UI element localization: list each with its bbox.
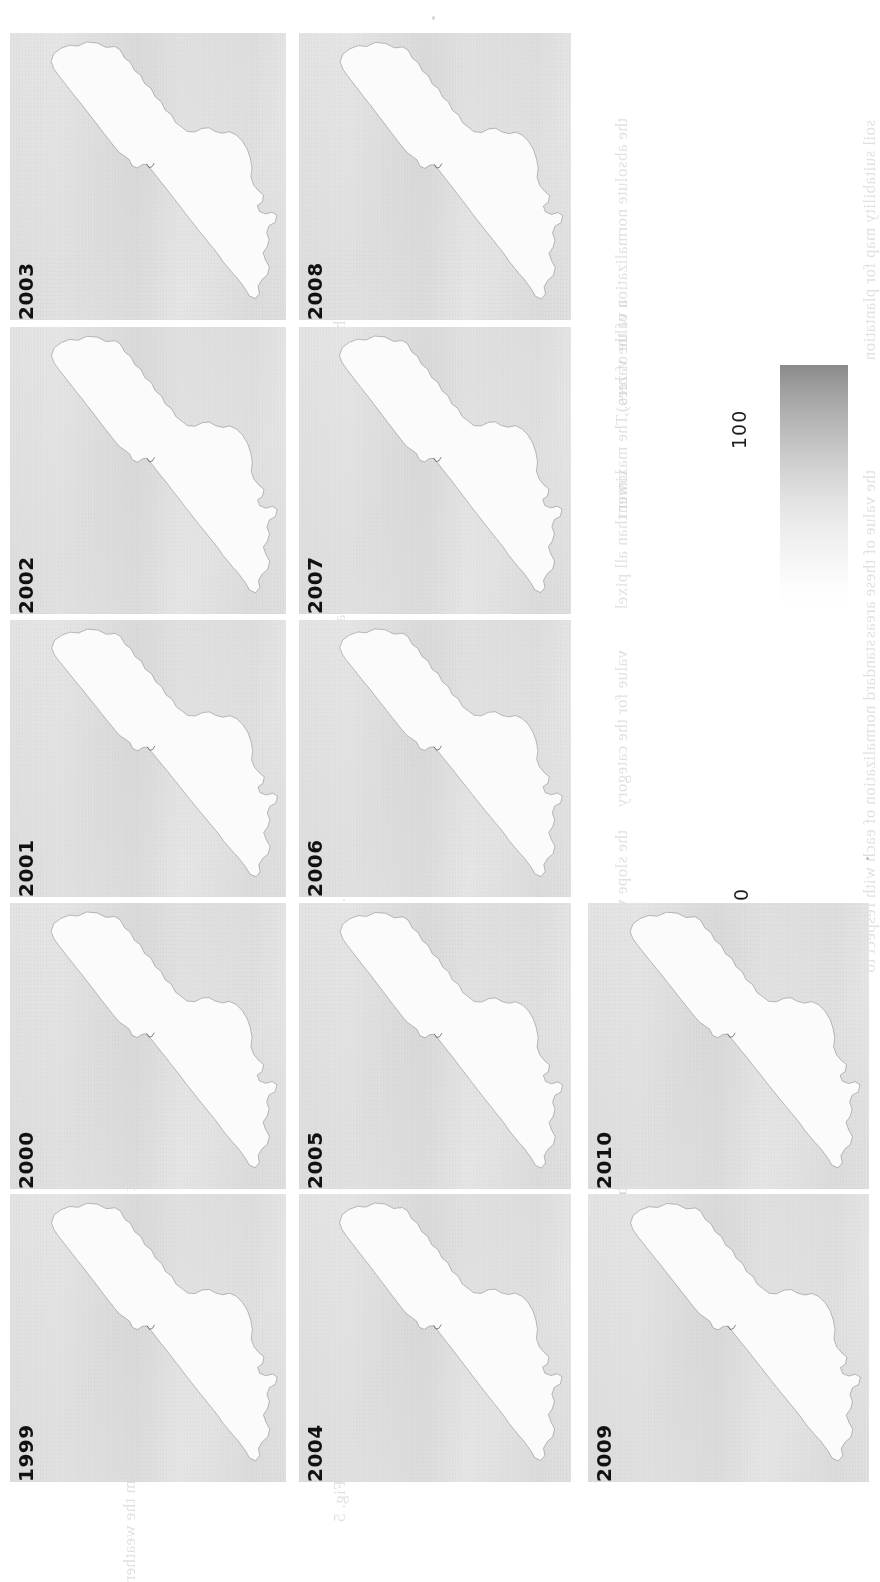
panel-year-label: 2003	[14, 262, 32, 320]
panel-year-label: 2000	[14, 1131, 32, 1189]
bleed-text-line: a value of zero),	[612, 300, 632, 417]
panel-year-label: 2008	[303, 262, 321, 320]
map-outline-2009	[588, 1194, 869, 1482]
coastline-polygon	[51, 1203, 277, 1460]
map-panel-2003[interactable]: 2003	[10, 33, 286, 320]
map-panel-2007[interactable]: 2007	[299, 327, 571, 614]
map-panel-2006[interactable]: 2006	[299, 620, 571, 897]
map-outline-2003	[10, 33, 286, 320]
coastline-polygon	[339, 1203, 561, 1460]
map-panel-2008[interactable]: 2008	[299, 33, 571, 320]
map-panel-2004[interactable]: 2004	[299, 1194, 571, 1482]
panel-year-label: 2010	[592, 1131, 610, 1189]
panel-year-label: 2005	[303, 1131, 321, 1189]
coastline-polygon	[52, 629, 278, 877]
bleed-text-line: soil suitability map for plantation	[860, 120, 880, 361]
panel-year-label: 2009	[592, 1424, 610, 1482]
colorbar-max-label: 100	[728, 410, 750, 449]
map-outline-2005	[299, 903, 571, 1189]
colorbar-min-label: 0	[730, 888, 752, 901]
panel-year-label: 1999	[14, 1424, 32, 1482]
bleed-text-line: the absolute normalization of the values…	[612, 118, 632, 518]
bleed-text-line: lower than all pixel	[612, 470, 632, 610]
coastline-polygon	[630, 912, 860, 1168]
coastline-polygon	[340, 42, 562, 299]
map-outline-2004	[299, 1194, 571, 1482]
scan-speck	[432, 16, 435, 20]
panel-year-label: 2001	[14, 839, 32, 897]
map-outline-2000	[10, 903, 286, 1189]
map-outline-2006	[299, 620, 571, 897]
map-outline-2008	[299, 33, 571, 320]
panel-year-label: 2007	[303, 556, 321, 614]
coastline-polygon	[339, 336, 561, 593]
coastline-polygon	[51, 912, 277, 1168]
map-panel-2001[interactable]: 2001	[10, 620, 286, 897]
map-panel-2005[interactable]: 2005	[299, 903, 571, 1189]
map-panel-2002[interactable]: 2002	[10, 327, 286, 614]
map-outline-1999	[10, 1194, 286, 1482]
map-outline-2002	[10, 327, 286, 614]
map-outline-2001	[10, 620, 286, 897]
map-panel-2000[interactable]: 2000	[10, 903, 286, 1189]
map-panel-2009[interactable]: 2009	[588, 1194, 869, 1482]
colorbar-legend: 100 0	[700, 355, 870, 875]
panel-year-label: 2006	[303, 839, 321, 897]
coastline-polygon	[630, 1204, 860, 1461]
map-panel-1999[interactable]: 1999	[10, 1194, 286, 1482]
coastline-polygon	[51, 42, 277, 299]
panel-year-label: 2004	[303, 1424, 321, 1482]
panel-year-label: 2002	[14, 556, 32, 614]
colorbar-gradient	[780, 365, 848, 605]
coastline-polygon	[340, 912, 562, 1168]
coastline-polygon	[51, 336, 277, 593]
scan-speck	[866, 857, 869, 860]
map-outline-2010	[588, 903, 869, 1189]
coastline-polygon	[340, 629, 562, 877]
bleed-text-line: value for the category	[612, 650, 632, 807]
map-panel-2010[interactable]: 2010	[588, 903, 869, 1189]
map-outline-2007	[299, 327, 571, 614]
